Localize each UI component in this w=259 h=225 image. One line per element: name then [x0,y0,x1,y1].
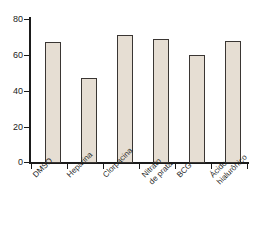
x-axis-label-bcg: BCG [175,161,194,180]
y-tick-label-80: 80 [1,15,23,24]
y-tick-label-20: 20 [1,123,23,132]
bar-clorpacina [117,35,133,163]
bar-nitrato-de-prata [153,39,169,163]
bar-bcg [189,55,205,163]
x-axis-labels: DMSO Heparina Clorpacina Nitrato de prat… [0,163,259,225]
bars-layer [29,19,249,163]
bar-dmso [45,42,61,163]
bar-chart: 80 60 40 20 0 DMSO Heparina Clorpacina N… [0,0,259,225]
bar-acido-hialuronico [225,41,241,163]
y-tick-label-60: 60 [1,51,23,60]
y-tick-label-40: 40 [1,87,23,96]
